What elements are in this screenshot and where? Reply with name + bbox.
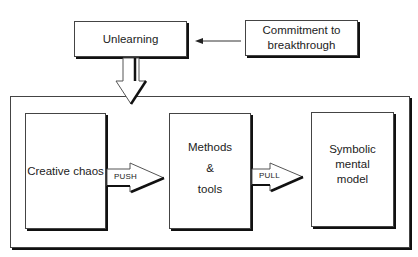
pull-label: PULL xyxy=(259,171,280,180)
unlearning-box: Unlearning xyxy=(74,21,187,57)
symbolic-model-line-1: Symbolic xyxy=(329,142,376,157)
commitment-box: Commitment to breakthrough xyxy=(245,20,358,56)
commitment-label-line-1: Commitment to xyxy=(263,23,341,38)
commitment-label-line-2: breakthrough xyxy=(268,38,336,53)
methods-tools-box: Methods & tools xyxy=(169,113,251,229)
commitment-to-unlearning-arrow xyxy=(195,38,241,44)
symbolic-model-line-2: mental xyxy=(335,157,370,172)
creative-chaos-box: Creative chaos xyxy=(25,113,106,229)
push-label: PUSH xyxy=(114,172,137,181)
methods-tools-line-1: Methods xyxy=(188,137,232,158)
creative-chaos-label: Creative chaos xyxy=(27,164,104,179)
symbolic-model-line-3: model xyxy=(337,172,368,187)
unlearning-label: Unlearning xyxy=(103,32,159,47)
methods-tools-line-3: tools xyxy=(198,179,222,200)
symbolic-mental-model-box: Symbolic mental model xyxy=(311,112,394,227)
methods-tools-line-2: & xyxy=(206,158,214,179)
